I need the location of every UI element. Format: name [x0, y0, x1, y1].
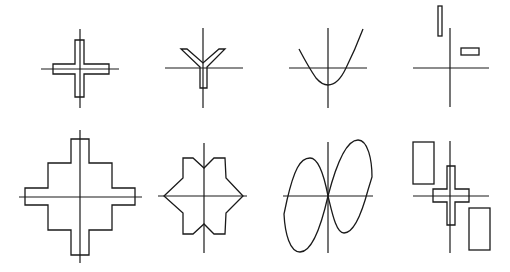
- panel-4-rectangles: [413, 6, 489, 107]
- upper-left-rectangle: [413, 142, 434, 184]
- sine-curve-a: [328, 140, 372, 233]
- panel-5-stepped-cross: [19, 130, 142, 263]
- parabola-curve: [299, 29, 363, 85]
- panel-6-star-shape: [158, 143, 247, 253]
- tall-rectangle: [438, 6, 442, 36]
- figure-canvas: [0, 0, 510, 272]
- panel-8-cross-with-rectangles: [413, 141, 490, 253]
- panel-7-sine-lobes: [283, 140, 373, 253]
- panel-3-parabola: [289, 28, 367, 108]
- sine-curve-b: [284, 158, 328, 252]
- lower-right-rectangle: [469, 208, 490, 250]
- wide-rectangle: [461, 48, 479, 55]
- panel-2-y-shape: [165, 28, 243, 108]
- panel-1-cross: [41, 29, 119, 108]
